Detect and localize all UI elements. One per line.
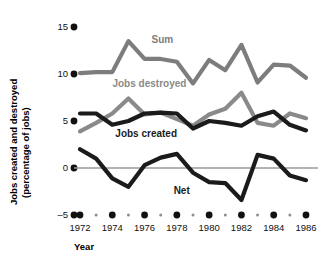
x-tick-dot-major	[270, 212, 277, 219]
x-tick-dot-major	[173, 212, 180, 219]
x-tick-dot-major	[206, 212, 213, 219]
y-axis-title-line2: (percentage of jobs)	[20, 107, 31, 198]
x-tick-label: 1982	[231, 222, 252, 233]
x-tick-label: 1978	[166, 222, 187, 233]
x-tick-label: 1976	[134, 222, 155, 233]
x-tick-dot-minor	[95, 214, 98, 217]
y-tick-label: 10	[57, 68, 68, 79]
x-tick-dot-major	[109, 212, 116, 219]
x-tick-label: 1984	[263, 222, 284, 233]
series-label-sum: Sum	[151, 34, 173, 45]
x-tick-dot-major	[303, 212, 310, 219]
x-tick-dot-minor	[159, 214, 162, 217]
x-tick-dot-minor	[256, 214, 259, 217]
jobs-created-destroyed-line-chart: Jobs created and destroyed (percentage o…	[0, 0, 328, 261]
x-tick-dot-minor	[288, 214, 291, 217]
y-tick-label: –5	[57, 209, 68, 220]
series-label-jobs-created: Jobs created	[115, 128, 177, 139]
y-tick-label: 15	[57, 21, 68, 32]
x-tick-dot-major	[141, 212, 148, 219]
chart-container: Jobs created and destroyed (percentage o…	[0, 0, 328, 261]
y-axis-title-line1: Jobs created and destroyed	[8, 79, 19, 205]
series-label-net: Net	[174, 185, 191, 196]
y-tick-label: 5	[63, 115, 68, 126]
x-axis-title: Year	[74, 241, 94, 252]
x-tick-dot-minor	[224, 214, 227, 217]
x-tick-dot-minor	[127, 214, 130, 217]
x-tick-label: 1974	[102, 222, 123, 233]
y-tick-dot	[71, 212, 78, 219]
series-label-jobs-destroyed: Jobs destroyed	[112, 78, 186, 89]
x-tick-label: 1980	[199, 222, 220, 233]
x-tick-dot-major	[238, 212, 245, 219]
y-tick-dot	[71, 71, 78, 78]
y-tick-label: 0	[63, 162, 68, 173]
y-tick-dot	[71, 24, 78, 31]
x-tick-dot-minor	[192, 214, 195, 217]
x-tick-label: 1972	[69, 222, 90, 233]
x-tick-label: 1986	[295, 222, 316, 233]
x-tick-dot-major	[77, 212, 84, 219]
y-tick-dot	[71, 118, 78, 125]
